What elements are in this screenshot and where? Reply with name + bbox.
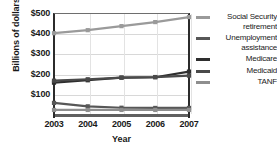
x-axis-tick-labels: 20032004200520062007: [0, 119, 277, 131]
data-point-marker: [52, 101, 56, 105]
legend-swatch-icon: [196, 58, 210, 61]
data-point-marker: [52, 79, 56, 83]
data-point-marker: [153, 108, 157, 112]
data-point-marker: [187, 108, 191, 112]
data-point-marker: [86, 77, 90, 81]
data-point-marker: [119, 24, 123, 28]
legend-label: Social Security retirement: [214, 12, 277, 31]
legend-swatch-icon: [196, 16, 210, 19]
x-axis-tick-label: 2007: [169, 119, 209, 129]
chart-legend: Social Security retirementUnemployment a…: [196, 12, 277, 89]
data-point-marker: [153, 75, 157, 79]
data-point-marker: [86, 108, 90, 112]
data-point-marker: [86, 104, 90, 108]
legend-label: Medicare: [214, 54, 277, 64]
series-social-security-retirement: [52, 15, 191, 35]
legend-label: TANF: [214, 77, 277, 87]
legend-item[interactable]: Unemployment assistance: [196, 33, 277, 52]
line-chart: Billions of dollars $500$400$300$200$100…: [0, 0, 277, 154]
data-point-marker: [52, 31, 56, 35]
legend-item[interactable]: Social Security retirement: [196, 12, 277, 31]
x-axis-title: Year: [53, 134, 190, 144]
data-point-marker: [119, 76, 123, 80]
legend-swatch-icon: [196, 81, 210, 84]
legend-swatch-icon: [196, 70, 210, 73]
data-point-marker: [86, 28, 90, 32]
data-point-marker: [153, 20, 157, 24]
data-point-marker: [52, 108, 56, 112]
legend-item[interactable]: TANF: [196, 77, 277, 87]
data-point-marker: [187, 15, 191, 19]
data-point-marker: [187, 69, 191, 73]
legend-label: Unemployment assistance: [214, 33, 277, 52]
data-point-marker: [119, 108, 123, 112]
legend-item[interactable]: Medicaid: [196, 66, 277, 76]
legend-swatch-icon: [196, 37, 210, 40]
legend-label: Medicaid: [214, 66, 277, 76]
legend-item[interactable]: Medicare: [196, 54, 277, 64]
data-point-marker: [187, 74, 191, 78]
